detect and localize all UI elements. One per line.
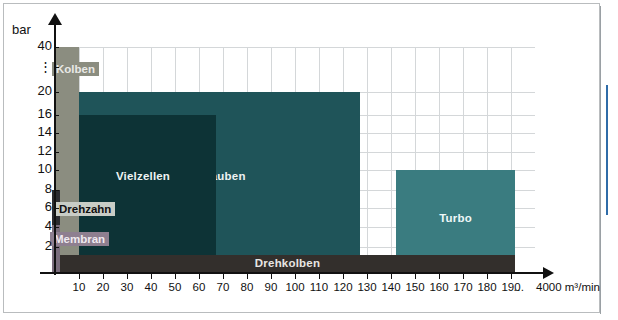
- x-tick-label: 70: [217, 281, 230, 293]
- y-tick-label: 10: [18, 164, 52, 174]
- x-tick-mark: [223, 274, 224, 279]
- bar-label-kolben: Kolben: [52, 62, 99, 76]
- y-tick-label: 16: [18, 109, 52, 119]
- x-tick-label: 80: [241, 281, 254, 293]
- x-tick-label: 10: [73, 281, 86, 293]
- x-tick-mark: [439, 274, 440, 279]
- x-tick-mark: [295, 274, 296, 279]
- x-tick-label: 20: [97, 281, 110, 293]
- x-tick-label: 50: [169, 281, 182, 293]
- y-tick-mark: [54, 227, 59, 228]
- x-tick-mark: [343, 274, 344, 279]
- x-tick-mark: [391, 274, 392, 279]
- x-tick-label: 90: [265, 281, 278, 293]
- gridline-horizontal: [55, 47, 535, 48]
- y-axis-tick-labels: 40⋮20161412108642: [8, 0, 52, 320]
- x-tick-mark: [199, 274, 200, 279]
- x-tick-mark: [103, 274, 104, 279]
- y-tick-label: 2: [18, 241, 52, 251]
- x-tick-label: 120: [333, 281, 352, 293]
- y-tick-mark: [54, 247, 59, 248]
- x-axis-tick-labels: 1020304050607080901001101201301401501601…: [0, 281, 618, 301]
- y-tick-mark: [54, 133, 59, 134]
- x-axis-unit-label: 4000 m³/min: [536, 281, 600, 293]
- x-tick-label: 140: [381, 281, 400, 293]
- x-tick-mark: [247, 274, 248, 279]
- y-tick-mark: [54, 170, 59, 171]
- x-tick-mark: [127, 274, 128, 279]
- x-tick-mark: [367, 274, 368, 279]
- x-tick-label: 60: [193, 281, 206, 293]
- y-tick-mark: [54, 47, 59, 48]
- bar-label-drehzahn: Drehzahn: [55, 202, 115, 216]
- x-tick-label: 30: [121, 281, 134, 293]
- x-tick-mark: [175, 274, 176, 279]
- gridline-vertical: [391, 47, 392, 272]
- bar-label-membran: Membran: [50, 232, 109, 246]
- y-tick-label: 4: [18, 221, 52, 231]
- x-tick-label: 150: [405, 281, 424, 293]
- y-tick-mark: [54, 115, 59, 116]
- x-axis-arrow-icon: [543, 267, 554, 279]
- y-tick-mark: [54, 67, 59, 68]
- y-tick-label: 8: [18, 184, 52, 194]
- x-axis-break-dots: …: [513, 281, 525, 293]
- bar-label-vielzellen: Vielzellen: [116, 170, 170, 182]
- x-tick-label: 180: [477, 281, 496, 293]
- x-tick-mark: [271, 274, 272, 279]
- y-tick-mark: [54, 208, 59, 209]
- x-tick-label: 100: [285, 281, 304, 293]
- gridline-vertical: [367, 47, 368, 272]
- x-tick-label: 130: [357, 281, 376, 293]
- x-tick-mark: [463, 274, 464, 279]
- y-tick-mark: [54, 152, 59, 153]
- x-tick-label: 160: [429, 281, 448, 293]
- y-tick-label: 14: [18, 127, 52, 137]
- x-tick-mark: [319, 274, 320, 279]
- bar-drehkolben: Drehkolben: [60, 255, 515, 272]
- x-tick-mark: [79, 274, 80, 279]
- bar-vielzellen: Vielzellen: [70, 115, 216, 272]
- y-tick-label: 12: [18, 146, 52, 156]
- y-tick-mark: [54, 190, 59, 191]
- y-axis-line: [54, 22, 56, 275]
- y-tick-label: ⋮: [18, 61, 52, 73]
- chart-plot-area: Schrauben Vielzellen Turbo Kolben Drehza…: [0, 0, 618, 320]
- x-tick-mark: [415, 274, 416, 279]
- bar-label-drehkolben: Drehkolben: [255, 257, 320, 269]
- x-tick-mark: [511, 274, 512, 279]
- x-tick-label: 170: [453, 281, 472, 293]
- bar-label-turbo: Turbo: [439, 212, 472, 224]
- y-tick-label: 6: [18, 202, 52, 212]
- y-tick-label: 40: [18, 41, 52, 51]
- screenshot-root: Schrauben Vielzellen Turbo Kolben Drehza…: [0, 0, 618, 320]
- y-tick-mark: [54, 92, 59, 93]
- x-axis-line: [40, 272, 545, 274]
- x-tick-label: 40: [145, 281, 158, 293]
- x-tick-label: 110: [310, 281, 328, 293]
- x-tick-mark: [487, 274, 488, 279]
- x-tick-mark: [151, 274, 152, 279]
- y-tick-label: 20: [18, 86, 52, 96]
